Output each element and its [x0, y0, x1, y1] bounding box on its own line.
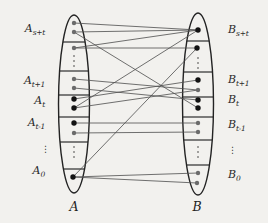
vertex-dot — [71, 96, 76, 101]
vertex-dot — [72, 86, 76, 90]
ellipsis-dot — [197, 151, 199, 153]
row-label-a-s+t: As+t — [25, 23, 45, 37]
graph-edge — [74, 90, 198, 108]
vertex-dot — [71, 120, 76, 125]
right-set-ellipse — [183, 13, 214, 195]
row-label-a-t+1: At+1 — [24, 75, 45, 89]
vertex-dot — [72, 131, 76, 135]
vertex-dot — [195, 77, 200, 82]
graph-edge — [73, 173, 198, 177]
vertex-dot — [71, 105, 76, 110]
graph-edge — [74, 79, 198, 90]
row-label-a-t: At — [34, 95, 45, 109]
left-vdots-label: ⋮ — [41, 145, 50, 154]
vertex-dot — [72, 30, 76, 34]
ellipsis-dot — [73, 146, 75, 148]
vertex-dot — [196, 121, 200, 125]
vertex-dot — [195, 27, 200, 32]
vertex-dot — [72, 46, 76, 50]
vertex-dot — [70, 174, 75, 179]
graph-edge — [74, 23, 198, 30]
row-label-b-0: B0 — [228, 169, 241, 183]
ellipsis-dot — [73, 156, 75, 158]
bipartite-graph-figure: As+tAt+1AtAt-1A0Bs+tBt+1BtBt-1B0⋮⋮ A B — [0, 0, 268, 223]
vertex-dot — [72, 21, 76, 25]
ellipsis-dot — [73, 151, 75, 153]
ellipsis-dot — [73, 55, 75, 57]
ellipsis-dot — [197, 146, 199, 148]
graph-edge — [74, 30, 198, 32]
row-label-b-t: Bt — [228, 94, 239, 108]
graph-edge — [74, 30, 198, 48]
set-a-label: A — [69, 199, 78, 214]
vertex-dot — [195, 181, 199, 185]
ellipsis-dot — [73, 60, 75, 62]
right-vdots-label: ⋮ — [228, 146, 237, 155]
set-b-label: B — [192, 199, 201, 214]
ellipsis-dot — [197, 57, 199, 59]
ellipsis-dot — [197, 62, 199, 64]
ellipsis-dot — [197, 156, 199, 158]
row-label-b-s+t: Bs+t — [228, 24, 248, 38]
vertex-dot — [195, 105, 200, 110]
ellipsis-dot — [197, 67, 199, 69]
vertex-dot — [196, 130, 200, 134]
row-label-b-t+1: Bt+1 — [228, 74, 249, 88]
vertex-dot — [196, 171, 200, 175]
vertex-dot — [72, 77, 76, 81]
graph-edge — [73, 177, 197, 183]
vertex-dot — [195, 97, 200, 102]
row-label-b-t-1: Bt-1 — [228, 119, 246, 133]
ellipsis-dot — [73, 65, 75, 67]
row-label-a-0: A0 — [33, 165, 45, 179]
vertex-dot — [194, 45, 199, 50]
graph-edge — [74, 132, 198, 133]
graph-edge — [73, 48, 197, 177]
vertex-dot — [196, 88, 200, 92]
row-label-a-t-1: At-1 — [28, 117, 45, 131]
